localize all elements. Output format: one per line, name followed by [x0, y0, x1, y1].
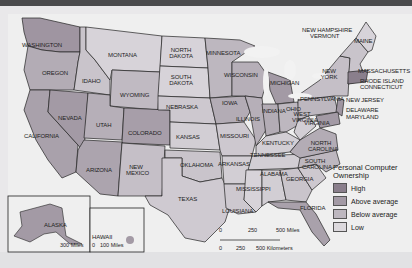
- legend-item-above-average: Above average: [333, 196, 412, 206]
- label-delaware: DELAWARE: [346, 107, 378, 113]
- hawaii-scale-zero: 0: [92, 242, 95, 248]
- label-minnesota: MINNESOTA: [206, 50, 240, 56]
- legend-swatch-below-average: [333, 209, 347, 219]
- label-vermont: VERMONT: [310, 33, 339, 39]
- label-massachusetts: MASSACHUSETTS: [358, 68, 410, 74]
- label-maine: MAINE: [354, 38, 373, 44]
- label-tennessee: TENNESSEE: [250, 152, 285, 158]
- state-missouri: [216, 122, 256, 156]
- legend-label-below-average: Below average: [351, 211, 397, 218]
- label-new-york: NEW YORK: [320, 68, 338, 80]
- label-south-carolina: SOUTH CAROLINA: [302, 158, 328, 170]
- lake-superior: [244, 46, 280, 58]
- legend: Personal Computer Ownership High Above a…: [333, 164, 412, 232]
- label-michigan: MICHIGAN: [270, 80, 299, 86]
- label-california: CALIFORNIA: [24, 133, 59, 139]
- label-nebraska: NEBRASKA: [166, 104, 198, 110]
- label-washington: WASHINGTON: [22, 42, 62, 48]
- legend-label-low: Low: [351, 224, 364, 231]
- label-illinois: ILLINOIS: [236, 116, 260, 122]
- label-arkansas: ARKANSAS: [218, 161, 250, 167]
- scale-km-250: 250: [236, 245, 245, 251]
- label-wyoming: WYOMING: [120, 92, 149, 98]
- legend-swatch-high: [333, 183, 347, 193]
- state-wyoming: [110, 70, 160, 110]
- label-alaska: ALASKA: [44, 222, 67, 228]
- label-kansas: KANSAS: [176, 134, 200, 140]
- label-montana: MONTANA: [108, 52, 137, 58]
- label-pennsylvania: PENNSYLVANIA: [300, 96, 344, 102]
- state-oregon: [24, 46, 80, 90]
- label-texas: TEXAS: [178, 196, 197, 202]
- label-new-mexico: NEW MEXICO: [126, 164, 146, 176]
- lake-huron: [284, 60, 296, 80]
- state-colorado: [122, 108, 170, 145]
- label-utah: UTAH: [96, 122, 112, 128]
- label-georgia: GEORGIA: [286, 176, 313, 182]
- label-colorado: COLORADO: [128, 130, 162, 136]
- legend-label-high: High: [351, 185, 365, 192]
- label-mississippi: MISSISSIPPI: [236, 186, 271, 192]
- legend-item-high: High: [333, 183, 412, 193]
- label-idaho: IDAHO: [82, 78, 101, 84]
- label-oregon: OREGON: [42, 70, 68, 76]
- label-alabama: ALABAMA: [260, 171, 288, 177]
- scale-km-500: 500 Kilometers: [256, 245, 293, 251]
- scale-miles-500: 500 Miles: [276, 227, 300, 233]
- state-wisconsin: [232, 62, 268, 98]
- label-indiana: INDIANA: [262, 108, 286, 114]
- alaska-scale-label: 300 Miles: [60, 242, 84, 248]
- label-nevada: NEVADA: [58, 115, 82, 121]
- lake-michigan: [263, 68, 269, 96]
- label-maryland: MARYLAND: [346, 114, 378, 120]
- label-wisconsin: WISCONSIN: [224, 72, 258, 78]
- label-oklahoma: OKLAHOMA: [180, 162, 213, 168]
- label-kentucky: KENTUCKY: [262, 140, 294, 146]
- legend-item-low: Low: [333, 222, 412, 232]
- legend-swatch-low: [333, 222, 347, 232]
- label-west-virginia: WEST VIRGINIA: [292, 111, 312, 123]
- label-new-jersey: NEW JERSEY: [346, 97, 384, 103]
- scale-miles-0: 0: [219, 227, 222, 233]
- label-north-carolina: NORTH CAROLINA: [308, 140, 334, 152]
- label-south-dakota: SOUTH DAKOTA: [168, 74, 194, 86]
- label-iowa: IOWA: [222, 100, 237, 106]
- label-north-dakota: NORTH DAKOTA: [168, 47, 194, 59]
- scale-km-0: 0: [219, 245, 222, 251]
- label-arizona: ARIZONA: [86, 167, 112, 173]
- label-louisiana: LOUISIANA: [222, 208, 253, 214]
- legend-item-below-average: Below average: [333, 209, 412, 219]
- hawaii-scale-label: 100 Miles: [100, 242, 124, 248]
- scale-miles-250: 250: [248, 227, 257, 233]
- label-florida: FLORIDA: [300, 205, 325, 211]
- legend-title: Personal Computer Ownership: [333, 164, 412, 180]
- label-missouri: MISSOURI: [220, 133, 249, 139]
- label-connecticut: CONNECTICUT: [360, 84, 403, 90]
- legend-swatch-above-average: [333, 196, 347, 206]
- label-hawaii: HAWAII: [92, 234, 112, 240]
- state-hawaii: [126, 236, 134, 244]
- legend-label-above-average: Above average: [351, 198, 398, 205]
